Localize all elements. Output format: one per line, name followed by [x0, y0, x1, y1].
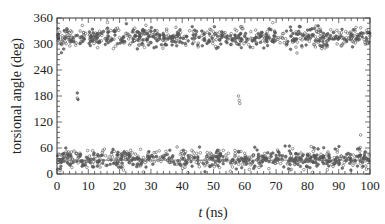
x-tick-labels: 0102030405060708090100 [54, 178, 380, 193]
y-axis-title: torsional angle (deg) [9, 38, 25, 154]
x-tick-label: 0 [54, 178, 61, 193]
y-tick-label: 120 [34, 114, 54, 129]
x-tick-label: 80 [301, 178, 314, 193]
x-tick-label: 90 [332, 178, 345, 193]
x-tick-label: 50 [207, 178, 220, 193]
torsional-angle-scatter-chart: 0102030405060708090100 06012018024030036… [0, 0, 385, 224]
y-tick-label: 360 [34, 10, 54, 25]
y-tick-label: 180 [34, 88, 54, 103]
y-tick-label: 300 [34, 36, 54, 51]
y-tick-label: 0 [47, 166, 54, 181]
x-tick-label: 40 [176, 178, 189, 193]
scatter-points [56, 21, 371, 174]
x-tick-label: 70 [270, 178, 283, 193]
x-tick-label: 60 [238, 178, 251, 193]
x-tick-label: 20 [113, 178, 126, 193]
x-tick-label: 100 [360, 178, 380, 193]
y-tick-label: 60 [40, 140, 53, 155]
x-tick-label: 30 [144, 178, 157, 193]
x-tick-label: 10 [82, 178, 95, 193]
x-axis-title: t (ns) [198, 205, 228, 221]
y-tick-label: 240 [34, 62, 54, 77]
y-tick-labels: 060120180240300360 [34, 10, 54, 181]
